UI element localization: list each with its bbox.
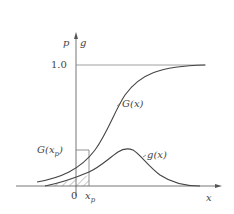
diagram-svg [0, 0, 234, 214]
y-axis-label-g: g [80, 38, 86, 48]
curve-label-Gx: G(x) [122, 99, 143, 109]
xp-label-subscript: p [91, 196, 95, 204]
gxp-label-close: ) [59, 144, 63, 155]
x-tick-label-zero: 0 [71, 191, 77, 201]
gx-leader-line [143, 155, 146, 157]
y-axis-label-p: p [63, 38, 69, 48]
x-axis-label: x [206, 193, 212, 203]
curve-label-gx: g(x) [147, 150, 167, 160]
y-tick-label-one: 1.0 [51, 60, 67, 70]
cumulative-curve-G [37, 65, 205, 182]
x-tick-label-xp: xp [85, 191, 95, 204]
density-curve-g [45, 149, 200, 186]
gxp-label: G(xp) [37, 145, 63, 158]
diagram-canvas: p g 1.0 G(x) g(x) G(xp) 0 xp x [0, 0, 234, 214]
x-axis-arrow-icon [215, 184, 222, 188]
y-axis-arrow-icon [74, 32, 78, 39]
gxp-label-main: G(x [37, 144, 55, 155]
